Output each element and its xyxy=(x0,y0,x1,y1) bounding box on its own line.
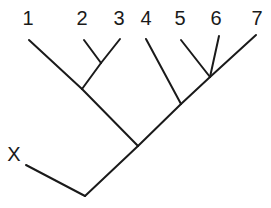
taxon-label-6: 6 xyxy=(210,8,221,28)
taxon-label-1: 1 xyxy=(22,8,33,28)
branch-line xyxy=(85,146,138,196)
cladogram-tree xyxy=(0,0,271,208)
branch-line xyxy=(82,63,101,89)
taxon-label-2: 2 xyxy=(76,8,87,28)
branch-line xyxy=(138,104,181,146)
branch-line xyxy=(101,39,120,63)
branch-line xyxy=(181,77,210,104)
branch-line xyxy=(82,89,138,146)
taxon-label-3: 3 xyxy=(113,8,124,28)
branch-line xyxy=(29,40,82,89)
taxon-label-7: 7 xyxy=(251,8,262,28)
taxon-label-4: 4 xyxy=(140,8,151,28)
branch-line xyxy=(26,165,85,196)
taxon-label-5: 5 xyxy=(174,8,185,28)
branch-line xyxy=(181,40,210,77)
taxon-label-x: X xyxy=(7,144,20,164)
branch-line xyxy=(84,40,101,63)
branch-line xyxy=(146,39,181,104)
